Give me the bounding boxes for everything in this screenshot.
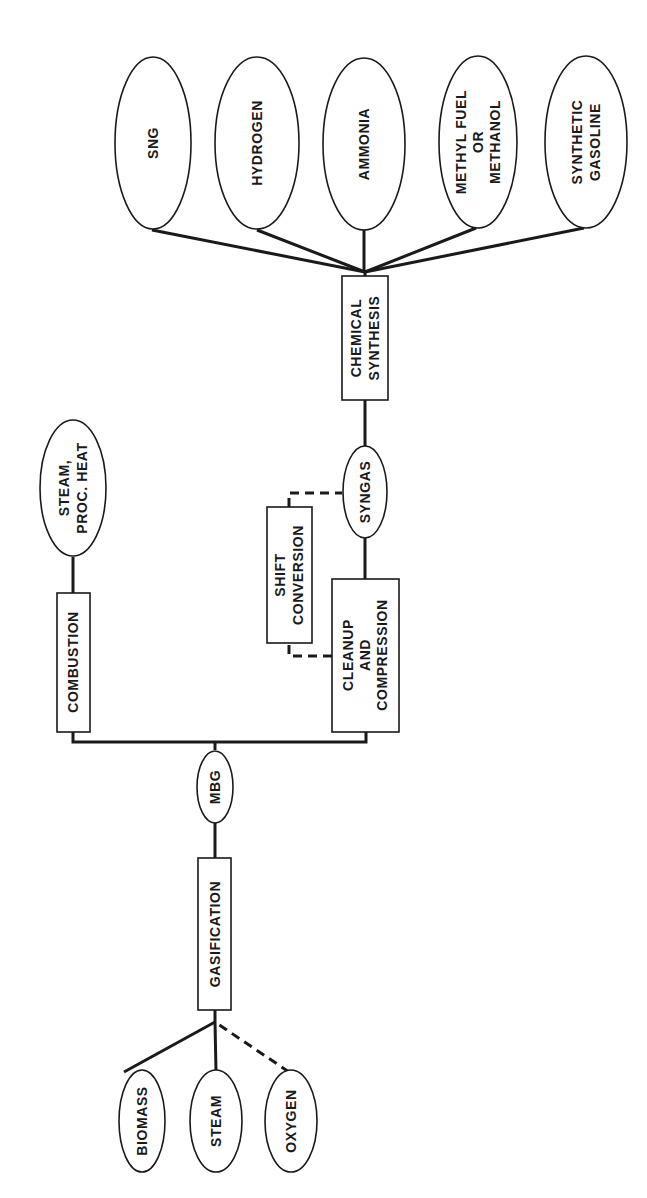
edge-chemical-gasoline <box>365 228 584 272</box>
node-steam: STEAM <box>190 1070 242 1172</box>
node-methyl-line1: METHYL FUEL <box>453 90 469 194</box>
edge-steam-gasification <box>215 1022 216 1071</box>
node-oxygen: OXYGEN <box>265 1070 317 1172</box>
node-gasification-label: GASIFICATION <box>207 881 223 988</box>
node-steam-proc-heat: STEAM, PROC. HEAT <box>40 420 106 556</box>
node-oxygen-label: OXYGEN <box>283 1089 299 1153</box>
node-combustion: COMBUSTION <box>57 593 90 732</box>
node-chemical-line2: SYNTHESIS <box>366 296 382 381</box>
edge-shift-syngas <box>289 493 342 507</box>
node-gasoline-line1: SYNTHETIC <box>569 100 585 185</box>
process-flow-diagram: BIOMASS STEAM OXYGEN GASIFICATION MBG CO… <box>0 0 647 1198</box>
node-biomass: BIOMASS <box>119 1070 165 1172</box>
edge-oxygen-gasification <box>215 1022 289 1072</box>
node-hydrogen-label: HYDROGEN <box>249 100 265 186</box>
node-syngas-label: SYNGAS <box>357 461 373 524</box>
node-combustion-label: COMBUSTION <box>65 611 81 713</box>
edge-chemical-sng <box>152 230 365 272</box>
node-steam-label: STEAM <box>208 1095 224 1147</box>
node-mbg-label: MBG <box>207 770 223 804</box>
node-cleanup-line1: CLEANUP <box>340 619 356 691</box>
node-methyl-fuel: METHYL FUEL OR METHANOL <box>439 56 517 228</box>
node-chemical-synthesis: CHEMICAL SYNTHESIS <box>342 276 388 400</box>
edges <box>73 228 584 1072</box>
node-shift-line2: CONVERSION <box>290 525 306 625</box>
node-cleanup-compression: CLEANUP AND COMPRESSION <box>332 579 399 732</box>
node-mbg: MBG <box>197 751 233 823</box>
node-biomass-label: BIOMASS <box>134 1086 150 1156</box>
node-gasoline-line2: GASOLINE <box>587 103 603 181</box>
node-steam-proc-heat-line1: STEAM, <box>56 460 72 517</box>
node-steam-proc-heat-line2: PROC. HEAT <box>74 442 90 533</box>
node-shift-line1: SHIFT <box>272 553 288 596</box>
node-gasification: GASIFICATION <box>198 858 231 1010</box>
node-methyl-line2: OR <box>470 131 486 153</box>
node-shift-conversion: SHIFT CONVERSION <box>267 507 312 643</box>
edge-chemical-hydrogen <box>257 230 365 272</box>
node-cleanup-line2: AND <box>357 639 373 671</box>
edge-bus <box>73 732 366 742</box>
node-synthetic-gasoline: SYNTHETIC GASOLINE <box>545 56 627 228</box>
node-ammonia: AMMONIA <box>323 58 405 230</box>
node-chemical-line1: CHEMICAL <box>348 299 364 378</box>
node-sng: SNG <box>115 57 191 229</box>
node-sng-label: SNG <box>145 127 161 159</box>
node-methyl-line3: METHANOL <box>487 100 503 184</box>
node-syngas: SYNGAS <box>343 446 387 538</box>
node-hydrogen: HYDROGEN <box>215 57 299 229</box>
edge-biomass-gasification <box>124 1022 215 1072</box>
node-cleanup-line3: COMPRESSION <box>374 599 390 711</box>
edge-chemical-methyl <box>365 228 476 272</box>
node-ammonia-label: AMMONIA <box>356 108 372 181</box>
edge-cleanup-shift <box>289 643 332 656</box>
